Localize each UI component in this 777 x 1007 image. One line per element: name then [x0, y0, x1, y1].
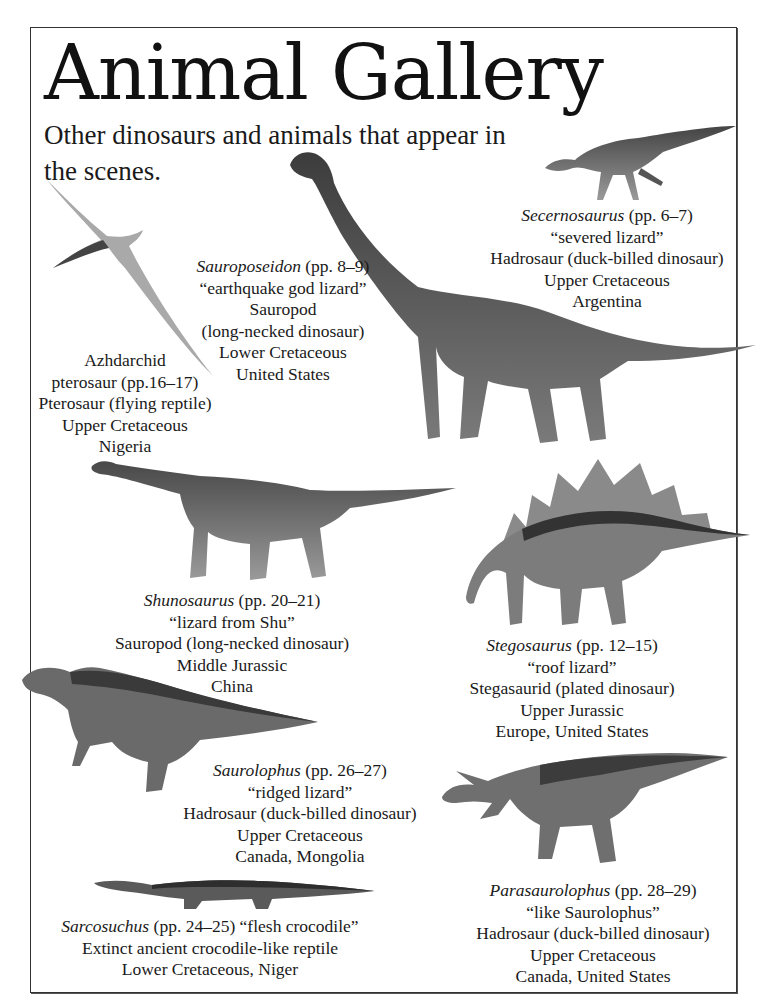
shunosaurus-caption: Shunosaurus (pp. 20–21) “lizard from Shu…: [92, 590, 372, 698]
saurolophus-caption: Saurolophus (pp. 26–27) “ridged lizard” …: [170, 760, 430, 868]
species-name: Secernosaurus: [521, 205, 624, 225]
name-meaning: “ridged lizard”: [170, 782, 430, 804]
animal-type: Stegasaurid (plated dinosaur): [436, 678, 708, 700]
stegosaurus-caption: Stegosaurus (pp. 12–15) “roof lizard” St…: [436, 635, 708, 743]
location: Canada, Mongolia: [170, 846, 430, 868]
animal-type: Hadrosaur (duck-billed dinosaur): [478, 248, 736, 270]
name-meaning: “lizard from Shu”: [92, 612, 372, 634]
animal-type: Sauropod (long-necked dinosaur): [92, 633, 372, 655]
name-meaning: “like Saurolophus”: [462, 902, 724, 924]
location: Europe, United States: [436, 721, 708, 743]
page-ref: (pp. 20–21): [239, 590, 321, 610]
species-name: Sarcosuchus: [61, 916, 149, 936]
sarcosuchus-caption: Sarcosuchus (pp. 24–25) “flesh crocodile…: [40, 916, 380, 981]
species-name: Sauroposeidon: [197, 256, 301, 276]
page-ref: (pp. 28–29): [615, 880, 697, 900]
shunosaurus-illustration: [90, 458, 458, 583]
location: Canada, United States: [462, 966, 724, 988]
animal-type: Extinct ancient crocodile-like reptile: [40, 938, 380, 960]
animal-type: Pterosaur (flying reptile): [30, 393, 220, 415]
animal-type: Hadrosaur (duck-billed dinosaur): [462, 923, 724, 945]
animal-type: Hadrosaur (duck-billed dinosaur): [170, 803, 430, 825]
geologic-period: Middle Jurassic: [92, 655, 372, 677]
animal-type: Sauropod: [172, 299, 394, 321]
animal-type-detail: (long-necked dinosaur): [172, 321, 394, 343]
sarcosuchus-illustration: [92, 873, 377, 911]
geologic-period: Upper Cretaceous: [170, 825, 430, 847]
stegosaurus-illustration: [462, 455, 752, 630]
name-meaning: “earthquake god lizard”: [172, 278, 394, 300]
period-location: Lower Cretaceous, Niger: [40, 959, 380, 981]
species-name: Shunosaurus: [144, 590, 234, 610]
name-meaning: “roof lizard”: [436, 657, 708, 679]
geologic-period: Upper Cretaceous: [462, 945, 724, 967]
geologic-period: Upper Cretaceous: [478, 270, 736, 292]
parasaurolophus-illustration: [440, 745, 730, 865]
page-ref-meaning: (pp. 24–25) “flesh crocodile”: [154, 916, 359, 936]
geologic-period: Upper Cretaceous: [30, 415, 220, 437]
parasaurolophus-caption: Parasaurolophus (pp. 28–29) “like Saurol…: [462, 880, 724, 988]
azhdarchid-caption: Azhdarchid pterosaur (pp.16–17) Pterosau…: [30, 350, 220, 458]
species-name: Azhdarchid: [30, 350, 220, 372]
name-meaning: “severed lizard”: [478, 227, 736, 249]
species-name: Parasaurolophus: [490, 880, 611, 900]
page-title: Animal Gallery: [44, 28, 603, 118]
geologic-period: Upper Jurassic: [436, 700, 708, 722]
species-name: Stegosaurus: [486, 635, 572, 655]
species-name: Saurolophus: [213, 760, 301, 780]
page-ref: (pp. 8–9): [305, 256, 369, 276]
page-ref: (pp. 6–7): [629, 205, 693, 225]
location: Nigeria: [30, 436, 220, 458]
page-ref: (pp. 12–15): [576, 635, 658, 655]
location: Argentina: [478, 291, 736, 313]
species-name-page-ref: pterosaur (pp.16–17): [30, 372, 220, 394]
secernosaurus-caption: Secernosaurus (pp. 6–7) “severed lizard”…: [478, 205, 736, 313]
location: China: [92, 676, 372, 698]
page-ref: (pp. 26–27): [305, 760, 387, 780]
